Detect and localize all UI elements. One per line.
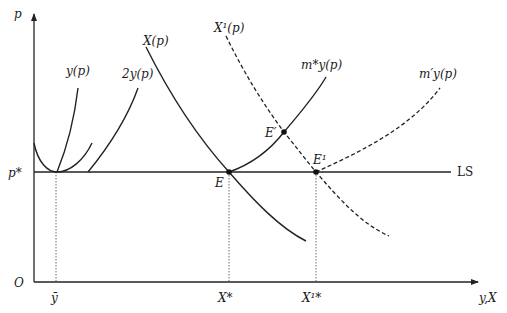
equilibrium-point-e-prime xyxy=(281,129,287,135)
m-star-supply-curve xyxy=(229,77,326,172)
ybar-tick-label: ȳ xyxy=(50,291,58,305)
m-star-supply-label: m*y(p) xyxy=(301,58,343,72)
x1-star-tick-label: X¹* xyxy=(301,291,321,305)
shifted-demand-label: X¹(p) xyxy=(213,21,245,35)
y-axis-label: p xyxy=(14,7,22,21)
supply-demand-diagram: p y,X O p* LS ȳ X* X¹* y(p) 2y(p) X(p) X… xyxy=(0,0,507,313)
origin-label: O xyxy=(14,276,24,290)
price-tick-label: p* xyxy=(8,166,22,180)
firm-supply-curve xyxy=(57,88,78,172)
equilibrium-e-label: E xyxy=(214,176,224,190)
equilibrium-e1-label: E¹ xyxy=(312,153,327,167)
m-prime-supply-curve xyxy=(316,88,440,172)
demand-label: X(p) xyxy=(142,34,169,48)
x-star-tick-label: X* xyxy=(217,291,233,305)
x-axis-label: y,X xyxy=(478,291,497,305)
equilibrium-point-e xyxy=(226,169,232,175)
long-run-supply-label: LS xyxy=(457,165,473,179)
demand-curve xyxy=(146,47,306,241)
two-firm-supply-curve xyxy=(88,88,138,172)
m-prime-supply-label: m′y(p) xyxy=(419,67,457,81)
two-firm-supply-label: 2y(p) xyxy=(121,67,154,81)
equilibrium-e-prime-label: E′ xyxy=(264,126,277,140)
equilibrium-point-e1 xyxy=(313,169,319,175)
firm-supply-label: y(p) xyxy=(65,64,90,78)
